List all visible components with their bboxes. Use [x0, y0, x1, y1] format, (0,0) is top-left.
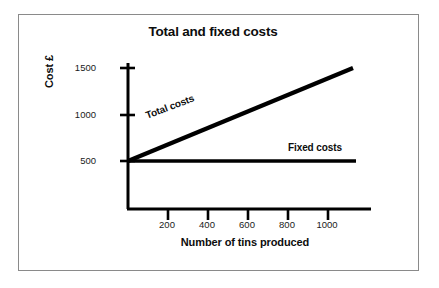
y-axis-title: Cost £ [43, 55, 55, 88]
y-tick-label-1500: 1500 [60, 62, 96, 73]
chart-frame-border [18, 14, 419, 271]
x-tick-label-1000: 1000 [307, 219, 347, 230]
x-tick-label-600: 600 [227, 219, 267, 230]
y-tick-label-500: 500 [60, 155, 96, 166]
chart-plot-area [19, 15, 420, 272]
x-tick-label-400: 400 [187, 219, 227, 230]
x-axis-title: Number of tins produced [120, 236, 370, 248]
chart-title: Total and fixed costs [98, 24, 328, 39]
x-tick-label-200: 200 [147, 219, 187, 230]
figure-container: Total and fixed costs Cost £ Number of t… [0, 0, 439, 288]
x-tick-label-800: 800 [267, 219, 307, 230]
y-tick-label-1000: 1000 [60, 109, 96, 120]
series-label-fixed-costs: Fixed costs [288, 142, 342, 153]
